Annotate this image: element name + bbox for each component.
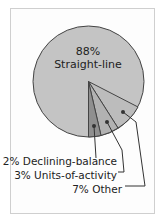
main-name-label: Straight-line [54, 58, 122, 71]
main-pct-label: 88% [76, 45, 100, 58]
pie-chart: 88% Straight-line 2% Declining-balance 3… [0, 0, 167, 222]
label-declining: 2% Declining-balance [3, 155, 117, 167]
leader-line-other [123, 112, 145, 186]
label-other: 7% Other [72, 183, 122, 195]
label-units: 3% Units-of-activity [14, 169, 117, 181]
